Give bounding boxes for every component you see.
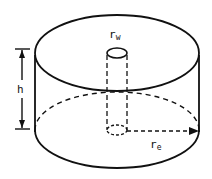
outer-radius-arrowhead-icon xyxy=(189,127,199,135)
well-top-ellipse xyxy=(107,48,127,58)
height-arrow-down-icon xyxy=(19,120,25,128)
well-radius-label: rw xyxy=(109,28,121,42)
cylinder-bottom-front xyxy=(35,130,199,168)
cylinder-top-ellipse xyxy=(35,15,199,91)
reservoir-diagram: h rw re xyxy=(0,0,212,179)
outer-radius-label: re xyxy=(150,138,162,152)
height-arrow-up-icon xyxy=(19,50,25,58)
height-label: h xyxy=(17,83,24,96)
cylinder-bottom-back xyxy=(35,92,199,130)
well-bottom-ellipse xyxy=(107,125,127,135)
